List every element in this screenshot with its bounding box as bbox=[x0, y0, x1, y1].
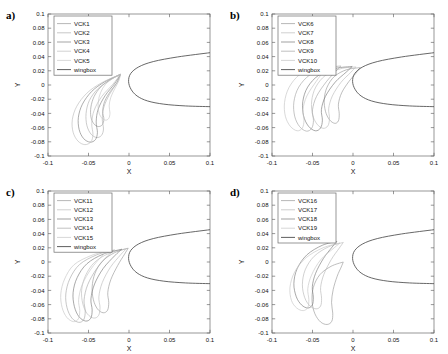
y-tick-label: 0.04 bbox=[33, 54, 45, 60]
figure-sheet: a) -0.1-0.0500.050.1-0.1-0.08-0.06-0.04-… bbox=[0, 0, 448, 354]
y-tick-label: 0.04 bbox=[257, 54, 269, 60]
y-axis-label: Y bbox=[14, 259, 21, 264]
y-tick-label: 0.1 bbox=[260, 11, 269, 17]
y-tick-label: 0.08 bbox=[33, 25, 45, 31]
x-tick-label: -0.05 bbox=[82, 160, 96, 166]
y-tick-label: 0.06 bbox=[33, 217, 45, 223]
legend-label-vck16: VCK16 bbox=[298, 198, 318, 204]
y-tick-label: 0 bbox=[265, 259, 269, 265]
y-tick-label: 0.06 bbox=[257, 40, 269, 46]
y-tick-label: 0.02 bbox=[257, 68, 269, 74]
y-tick-label: -0.1 bbox=[34, 330, 45, 336]
legend-label-vck11: VCK11 bbox=[74, 198, 93, 204]
legend-label-vck8: VCK8 bbox=[298, 39, 314, 45]
x-tick-label: -0.05 bbox=[82, 337, 96, 343]
y-tick-label: -0.06 bbox=[31, 125, 45, 131]
legend-label-vck7: VCK7 bbox=[298, 30, 314, 36]
x-tick-label: 0.05 bbox=[164, 160, 176, 166]
legend-label-wingbox: wingbox bbox=[297, 235, 320, 241]
x-tick-label: 0.1 bbox=[430, 337, 439, 343]
x-tick-label: 0.1 bbox=[430, 160, 439, 166]
x-tick-label: 0.1 bbox=[206, 160, 215, 166]
y-tick-label: -0.02 bbox=[31, 273, 45, 279]
y-tick-label: 0.1 bbox=[36, 188, 45, 194]
legend-label-vck6: VCK6 bbox=[298, 21, 314, 27]
x-tick-label: 0.05 bbox=[388, 160, 400, 166]
x-axis-label: X bbox=[127, 168, 132, 175]
y-tick-label: -0.02 bbox=[255, 96, 269, 102]
y-tick-label: 0.06 bbox=[33, 40, 45, 46]
y-tick-label: -0.02 bbox=[255, 273, 269, 279]
y-tick-label: 0.1 bbox=[260, 188, 269, 194]
legend-label-vck3: VCK3 bbox=[74, 39, 90, 45]
panel-d: d) -0.1-0.0500.050.1-0.1-0.08-0.06-0.04-… bbox=[224, 177, 448, 354]
plot-d: -0.1-0.0500.050.1-0.1-0.08-0.06-0.04-0.0… bbox=[224, 177, 448, 354]
x-tick-label: 0 bbox=[127, 160, 131, 166]
y-tick-label: 0.04 bbox=[257, 231, 269, 237]
x-tick-label: -0.1 bbox=[267, 160, 278, 166]
legend-label-vck14: VCK14 bbox=[74, 225, 94, 231]
y-tick-label: 0.08 bbox=[257, 25, 269, 31]
y-tick-label: -0.1 bbox=[258, 153, 269, 159]
x-tick-label: -0.1 bbox=[43, 337, 54, 343]
legend-label-wingbox: wingbox bbox=[297, 67, 320, 73]
legend-label-vck1: VCK1 bbox=[74, 21, 90, 27]
x-tick-label: 0.05 bbox=[164, 337, 176, 343]
panel-a: a) -0.1-0.0500.050.1-0.1-0.08-0.06-0.04-… bbox=[0, 0, 224, 177]
x-tick-label: 0.1 bbox=[206, 337, 215, 343]
y-tick-label: -0.1 bbox=[34, 153, 45, 159]
x-tick-label: 0 bbox=[127, 337, 131, 343]
legend-label-vck17: VCK17 bbox=[298, 207, 318, 213]
y-tick-label: -0.04 bbox=[31, 111, 45, 117]
y-tick-label: 0.02 bbox=[33, 245, 45, 251]
x-axis-label: X bbox=[351, 345, 356, 352]
y-axis-label: Y bbox=[14, 82, 21, 87]
x-tick-label: -0.1 bbox=[267, 337, 278, 343]
y-axis-label: Y bbox=[238, 259, 245, 264]
x-tick-label: 0.05 bbox=[388, 337, 400, 343]
legend-label-vck15: VCK15 bbox=[74, 235, 94, 241]
y-tick-label: 0.02 bbox=[257, 245, 269, 251]
x-axis-label: X bbox=[127, 345, 132, 352]
y-tick-label: 0.02 bbox=[33, 68, 45, 74]
y-tick-label: -0.08 bbox=[31, 139, 45, 145]
y-tick-label: -0.08 bbox=[255, 139, 269, 145]
y-tick-label: 0.1 bbox=[36, 11, 45, 17]
y-tick-label: 0.04 bbox=[33, 231, 45, 237]
y-tick-label: -0.02 bbox=[31, 96, 45, 102]
legend-label-vck12: VCK12 bbox=[74, 207, 94, 213]
x-tick-label: -0.05 bbox=[306, 337, 320, 343]
y-tick-label: 0.08 bbox=[257, 202, 269, 208]
y-tick-label: -0.06 bbox=[255, 125, 269, 131]
legend-label-vck4: VCK4 bbox=[74, 48, 90, 54]
legend-label-vck18: VCK18 bbox=[298, 216, 318, 222]
y-tick-label: -0.04 bbox=[31, 288, 45, 294]
panel-c: c) -0.1-0.0500.050.1-0.1-0.08-0.06-0.04-… bbox=[0, 177, 224, 354]
panel-b: b) -0.1-0.0500.050.1-0.1-0.08-0.06-0.04-… bbox=[224, 0, 448, 177]
legend-label-vck19: VCK19 bbox=[298, 225, 318, 231]
legend-label-wingbox: wingbox bbox=[73, 244, 96, 250]
y-tick-label: -0.04 bbox=[255, 288, 269, 294]
plot-a: -0.1-0.0500.050.1-0.1-0.08-0.06-0.04-0.0… bbox=[0, 0, 224, 177]
legend-label-vck13: VCK13 bbox=[74, 216, 94, 222]
y-tick-label: -0.08 bbox=[255, 316, 269, 322]
y-tick-label: 0.06 bbox=[257, 217, 269, 223]
y-tick-label: -0.04 bbox=[255, 111, 269, 117]
x-tick-label: -0.1 bbox=[43, 160, 54, 166]
y-tick-label: 0.08 bbox=[33, 202, 45, 208]
legend-label-vck9: VCK9 bbox=[298, 48, 314, 54]
y-tick-label: 0 bbox=[41, 259, 45, 265]
legend-label-vck10: VCK10 bbox=[298, 58, 318, 64]
y-tick-label: -0.06 bbox=[255, 302, 269, 308]
x-tick-label: 0 bbox=[351, 160, 355, 166]
plot-b: -0.1-0.0500.050.1-0.1-0.08-0.06-0.04-0.0… bbox=[224, 0, 448, 177]
y-tick-label: -0.08 bbox=[31, 316, 45, 322]
x-tick-label: 0 bbox=[351, 337, 355, 343]
legend-label-vck5: VCK5 bbox=[74, 58, 90, 64]
legend-label-vck2: VCK2 bbox=[74, 30, 90, 36]
plot-c: -0.1-0.0500.050.1-0.1-0.08-0.06-0.04-0.0… bbox=[0, 177, 224, 354]
y-tick-label: -0.1 bbox=[258, 330, 269, 336]
y-tick-label: -0.06 bbox=[31, 302, 45, 308]
legend-label-wingbox: wingbox bbox=[73, 67, 96, 73]
x-tick-label: -0.05 bbox=[306, 160, 320, 166]
